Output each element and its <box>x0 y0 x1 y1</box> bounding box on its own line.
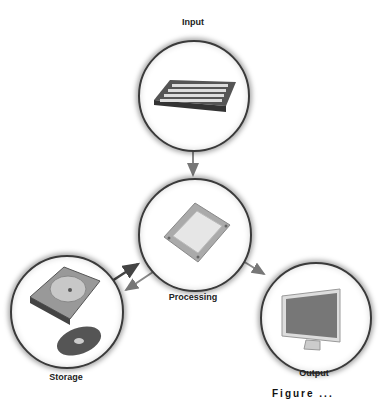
node-label-storage: Storage <box>16 372 116 382</box>
node-processing <box>138 178 252 292</box>
node-label-input: Input <box>143 17 243 27</box>
hard-drive-and-disc-icon <box>12 257 122 367</box>
node-storage <box>10 255 124 369</box>
figure-caption-fragment: Figure ... <box>272 388 334 399</box>
monitor-icon <box>262 264 370 372</box>
node-label-processing: Processing <box>143 292 243 302</box>
node-label-output: Output <box>264 368 364 378</box>
cpu-chip-icon <box>140 180 250 290</box>
keyboard-icon <box>140 42 248 150</box>
node-output <box>260 262 372 374</box>
node-input <box>138 40 250 152</box>
